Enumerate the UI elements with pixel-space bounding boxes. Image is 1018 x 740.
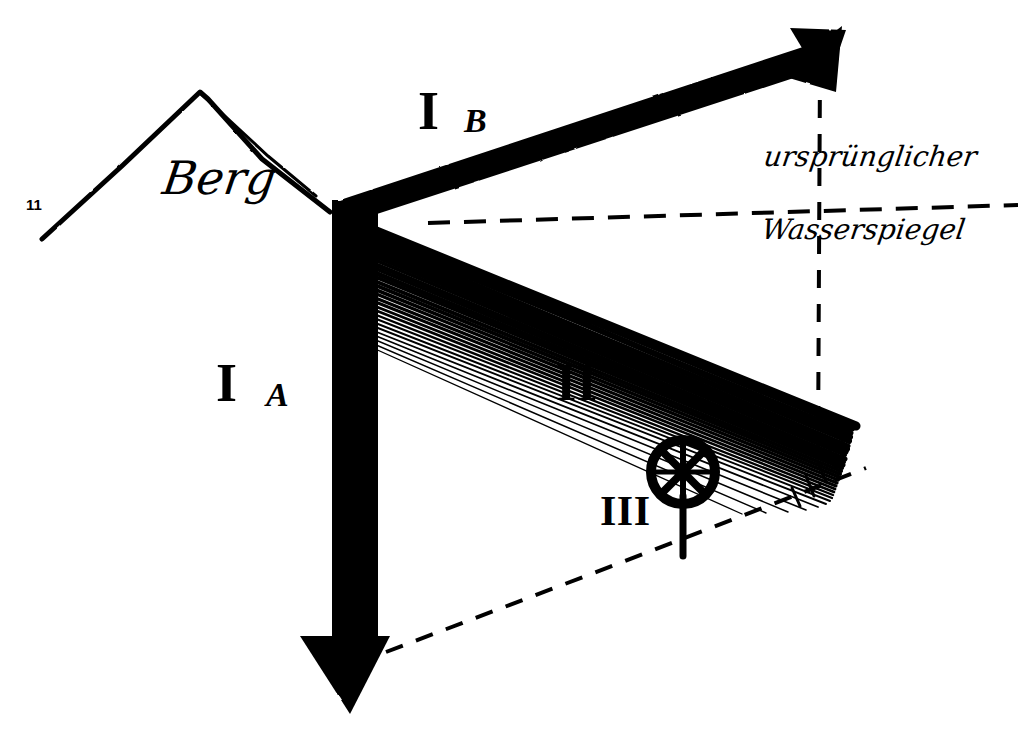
page-number: 11	[26, 197, 42, 212]
vertical-drop-dashed-line	[818, 66, 820, 455]
label-vector-ib-numeral: I	[418, 84, 440, 138]
label-berg: Berg	[160, 155, 279, 201]
vector-arrow-i-a	[300, 200, 390, 714]
label-vector-ia-subscript: A	[266, 378, 289, 412]
vector-arrow-i-b	[334, 26, 846, 228]
diagram-page: Berg ursprünglicher Wasserspiegel I B I …	[0, 0, 1018, 740]
label-vector-ib-subscript: B	[464, 104, 487, 138]
label-flow-fan-ii: II	[556, 357, 597, 409]
label-turbine-iii: III	[600, 490, 651, 532]
flow-fan-hatching	[353, 226, 856, 514]
label-original-water-level-line2: Wasserspiegel	[760, 216, 967, 244]
label-original-water-level-line1: ursprünglicher	[762, 143, 979, 171]
diagram-canvas	[0, 0, 1018, 740]
label-vector-ia-numeral: I	[216, 356, 238, 410]
